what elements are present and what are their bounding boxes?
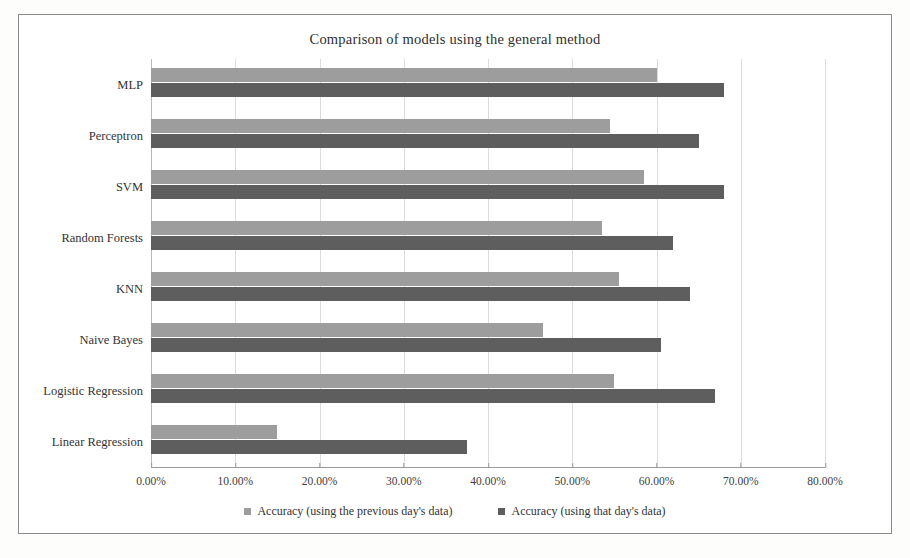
x-tick-label: 50.00% [555, 467, 590, 487]
bar-that-day [151, 134, 699, 148]
bar-that-day [151, 83, 724, 97]
tick-mark [741, 463, 742, 468]
tick-mark [151, 463, 152, 468]
x-tick-label: 30.00% [386, 467, 421, 487]
page-background: Comparison of models using the general m… [0, 0, 910, 558]
legend-label: Accuracy (using that day's data) [511, 504, 665, 519]
chart-legend: Accuracy (using the previous day's data)… [19, 504, 891, 519]
bar-row: Naive Bayes [151, 314, 825, 365]
x-tick-label: 20.00% [302, 467, 337, 487]
x-axis-ticks: 0.00%10.00%20.00%30.00%40.00%50.00%60.00… [151, 467, 825, 497]
category-label: SVM [116, 179, 143, 194]
bar-previous-day [151, 221, 602, 235]
tick-mark [404, 463, 405, 468]
bar-row: KNN [151, 263, 825, 314]
chart-frame: Comparison of models using the general m… [18, 14, 892, 534]
gridline-80 [825, 59, 826, 467]
tick-mark [235, 463, 236, 468]
category-label: Linear Regression [52, 434, 143, 449]
x-tick-60: 60.00% [639, 467, 674, 487]
x-tick-40: 40.00% [470, 467, 505, 487]
bar-that-day [151, 440, 467, 454]
bar-that-day [151, 236, 673, 250]
x-tick-label: 40.00% [470, 467, 505, 487]
x-tick-label: 60.00% [639, 467, 674, 487]
tick-mark [825, 463, 826, 468]
x-tick-label: 80.00% [807, 467, 842, 487]
bar-previous-day [151, 425, 277, 439]
x-tick-50: 50.00% [555, 467, 590, 487]
x-tick-label: 10.00% [218, 467, 253, 487]
legend-swatch-icon [498, 508, 505, 515]
category-label: MLP [117, 77, 143, 92]
bar-rows: MLPPerceptronSVMRandom ForestsKNNNaive B… [151, 59, 825, 467]
x-tick-label: 0.00% [136, 467, 166, 487]
x-tick-10: 10.00% [218, 467, 253, 487]
x-tick-label: 70.00% [723, 467, 758, 487]
x-tick-30: 30.00% [386, 467, 421, 487]
bar-previous-day [151, 323, 543, 337]
bar-previous-day [151, 272, 619, 286]
tick-mark [320, 463, 321, 468]
bar-row: Perceptron [151, 110, 825, 161]
bar-that-day [151, 185, 724, 199]
x-tick-20: 20.00% [302, 467, 337, 487]
category-label: Naive Bayes [79, 332, 143, 347]
x-tick-70: 70.00% [723, 467, 758, 487]
x-tick-0: 0.00% [136, 467, 166, 487]
bar-row: Linear Regression [151, 416, 825, 467]
category-label: Perceptron [89, 128, 143, 143]
tick-mark [572, 463, 573, 468]
x-tick-80: 80.00% [807, 467, 842, 487]
legend-label: Accuracy (using the previous day's data) [257, 504, 452, 519]
legend-item[interactable]: Accuracy (using that day's data) [498, 504, 665, 519]
bar-that-day [151, 338, 661, 352]
bar-previous-day [151, 68, 657, 82]
chart-title: Comparison of models using the general m… [19, 31, 891, 48]
tick-mark [657, 463, 658, 468]
category-label: Logistic Regression [43, 383, 143, 398]
bar-row: SVM [151, 161, 825, 212]
bar-that-day [151, 287, 690, 301]
plot-area: MLPPerceptronSVMRandom ForestsKNNNaive B… [151, 59, 825, 467]
bar-previous-day [151, 119, 610, 133]
bar-row: MLP [151, 59, 825, 110]
bar-row: Random Forests [151, 212, 825, 263]
category-label: KNN [116, 281, 143, 296]
tick-mark [488, 463, 489, 468]
category-label: Random Forests [61, 230, 143, 245]
bar-previous-day [151, 374, 614, 388]
legend-swatch-icon [244, 508, 251, 515]
bar-previous-day [151, 170, 644, 184]
bar-row: Logistic Regression [151, 365, 825, 416]
bar-that-day [151, 389, 715, 403]
legend-item[interactable]: Accuracy (using the previous day's data) [244, 504, 452, 519]
